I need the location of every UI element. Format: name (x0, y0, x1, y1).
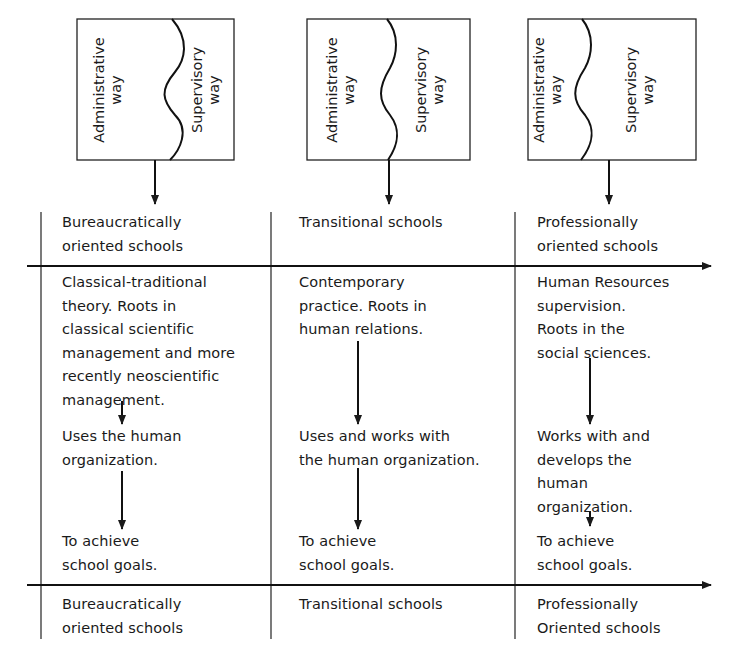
wave-divider (164, 19, 184, 160)
col1-goal: To achieve school goals. (62, 530, 158, 577)
wave-divider (575, 19, 592, 160)
box-3-administrative-label: Administrative way (531, 32, 565, 148)
col3-relation: Works with and develops the human organi… (537, 425, 650, 519)
top-label-professional: Professionally oriented schools (537, 211, 658, 258)
col1-relation: Uses the human organization. (62, 425, 182, 472)
box-2-supervisory-label: Supervisory way (413, 32, 447, 148)
wave-divider (381, 19, 397, 160)
col2-goal: To achieve school goals. (299, 530, 395, 577)
bottom-label-transitional: Transitional schools (299, 593, 443, 617)
col1-theory: Classical-traditional theory. Roots in c… (62, 271, 235, 412)
col2-theory: Contemporary practice. Roots in human re… (299, 271, 427, 342)
top-label-transitional: Transitional schools (299, 211, 443, 235)
top-label-bureaucratic: Bureaucratically oriented schools (62, 211, 183, 258)
bottom-label-professional: Professionally Oriented schools (537, 593, 661, 640)
box-3-supervisory-label: Supervisory way (623, 32, 657, 148)
col3-goal: To achieve school goals. (537, 530, 633, 577)
col3-theory: Human Resources supervision. Roots in th… (537, 271, 669, 365)
bottom-label-bureaucratic: Bureaucratically oriented schools (62, 593, 183, 640)
box-2-administrative-label: Administrative way (324, 32, 358, 148)
box-1-supervisory-label: Supervisory way (189, 32, 223, 148)
box-1-administrative-label: Administrative way (91, 32, 125, 148)
col2-relation: Uses and works with the human organizati… (299, 425, 480, 472)
